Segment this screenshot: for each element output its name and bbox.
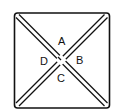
region-label-b: B xyxy=(76,54,83,66)
region-label-c: C xyxy=(57,72,65,84)
region-label-a: A xyxy=(58,35,66,47)
diagram-canvas: A B C D xyxy=(0,0,116,112)
region-label-d: D xyxy=(40,55,48,67)
